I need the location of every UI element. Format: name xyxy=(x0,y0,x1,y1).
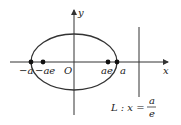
origin-label: O xyxy=(64,65,72,76)
directrix-numerator: a xyxy=(149,95,155,106)
right-vertex-label: a xyxy=(120,65,126,76)
directrix-denominator: e xyxy=(149,108,155,119)
right-vertex-point xyxy=(115,60,120,65)
ellipse-diagram: y x O −a −ae ae a L : x = a e xyxy=(0,0,181,125)
left-vertex-label: −a xyxy=(19,65,33,76)
directrix-equation: L : x = xyxy=(110,102,145,113)
right-focus-label: ae xyxy=(101,65,113,76)
y-axis-label: y xyxy=(77,7,84,18)
left-focus-label: −ae xyxy=(35,65,55,76)
left-vertex-point xyxy=(29,60,34,65)
right-focus-point xyxy=(106,60,111,65)
x-axis-label: x xyxy=(163,65,169,76)
left-focus-point xyxy=(41,60,46,65)
